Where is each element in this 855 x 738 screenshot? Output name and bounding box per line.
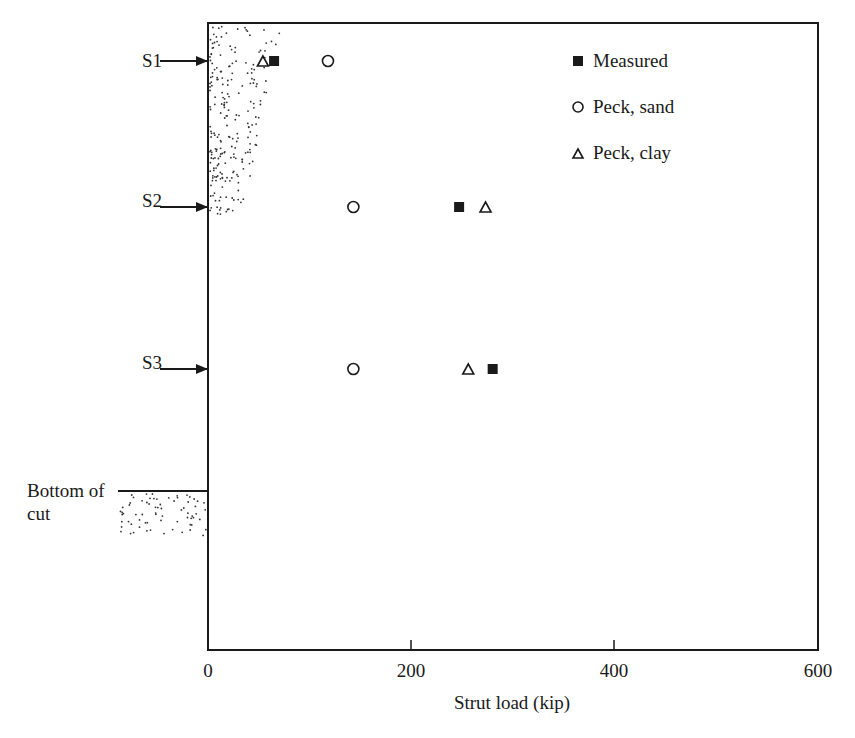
legend-peck-sand-label: Peck, sand <box>593 96 675 117</box>
data-point-peck-clay-s3 <box>463 364 474 374</box>
x-tick-label-0: 0 <box>203 660 213 681</box>
bottom-of-cut-label-line2: cut <box>27 503 51 524</box>
data-point-measured-s3 <box>488 364 498 374</box>
strut-load-chart: 0 200 400 600 Strut load (kip) S1 S2 S3 … <box>0 0 855 738</box>
legend-measured-icon <box>573 56 583 66</box>
data-point-peck-clay-s1 <box>257 56 268 66</box>
strut-label-s2: S2 <box>142 190 162 211</box>
x-tick-label-600: 600 <box>804 660 833 681</box>
x-axis-label: Strut load (kip) <box>454 692 570 714</box>
legend-peck-clay-icon <box>573 149 583 158</box>
strut-label-s1: S1 <box>142 50 162 71</box>
x-tick-label-200: 200 <box>397 660 426 681</box>
legend: Measured Peck, sand Peck, clay <box>573 50 675 163</box>
legend-measured-label: Measured <box>593 50 668 71</box>
data-point-peck-clay-s2 <box>480 202 491 212</box>
data-point-peck-sand-s3 <box>348 364 359 375</box>
soil-stipple-top <box>209 26 280 215</box>
legend-peck-sand-icon <box>573 102 583 112</box>
soil-stipple-bottom <box>120 493 207 536</box>
data-point-measured-s1 <box>269 56 279 66</box>
bottom-of-cut-label-line1: Bottom of <box>27 480 105 501</box>
plot-frame <box>208 23 818 650</box>
data-point-peck-sand-s2 <box>348 202 359 213</box>
x-tick-label-400: 400 <box>600 660 629 681</box>
legend-peck-clay-label: Peck, clay <box>593 142 672 163</box>
strut-label-s3: S3 <box>142 352 162 373</box>
data-markers <box>257 56 497 375</box>
data-point-peck-sand-s1 <box>322 56 333 67</box>
data-point-measured-s2 <box>454 202 464 212</box>
